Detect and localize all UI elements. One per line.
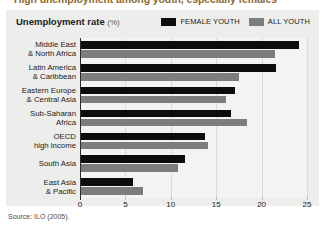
value-axis-ticks: 0510152025 <box>80 200 307 212</box>
legend-swatch-all-youth <box>249 18 264 26</box>
bar <box>81 187 143 195</box>
bars-group <box>80 38 307 198</box>
bar <box>81 87 235 95</box>
bar <box>81 73 239 81</box>
category-label: Sub-SaharanAfrica <box>10 107 76 130</box>
gridline-25 <box>307 38 308 198</box>
category-axis-labels: Middle East& North AfricaLatin America& … <box>10 38 76 198</box>
x-tick-mark-10 <box>171 196 172 200</box>
bar-group-row <box>81 61 307 84</box>
chart-panel: Unemployment rate (%) FEMALE YOUTH ALL Y… <box>6 10 319 206</box>
category-label-line: OECD <box>53 132 76 141</box>
category-label-line: Latin America <box>29 63 76 72</box>
x-tick-label-20: 20 <box>257 200 266 209</box>
x-tick-label-5: 5 <box>123 200 127 209</box>
chart-legend: FEMALE YOUTH ALL YOUTH <box>161 17 310 26</box>
plot-area <box>80 38 307 198</box>
x-tick-label-0: 0 <box>78 200 82 209</box>
legend-label-all-youth: ALL YOUTH <box>268 17 310 26</box>
x-tick-label-25: 25 <box>303 200 312 209</box>
category-label: Latin America& Caribbean <box>10 61 76 84</box>
bar <box>81 155 185 163</box>
bar <box>81 96 226 104</box>
category-label-line: & North Africa <box>28 49 76 58</box>
bar <box>81 164 178 172</box>
figure-container: High unemployment among youth, especiall… <box>0 0 325 243</box>
category-label: OECDhigh income <box>10 129 76 152</box>
value-axis-line <box>80 38 81 198</box>
source-note: Source: ILO (2005). <box>8 213 69 220</box>
x-tick-mark-5 <box>125 196 126 200</box>
category-label: Middle East& North Africa <box>10 38 76 61</box>
x-tick-mark-25 <box>307 196 308 200</box>
bar <box>81 142 208 150</box>
category-label-line: high income <box>34 141 76 150</box>
bar-group-row <box>81 84 307 107</box>
bar-group-row <box>81 175 307 198</box>
category-label-line: South Asia <box>39 159 76 168</box>
category-label-line: Eastern Europe <box>22 86 76 95</box>
panel-title-text: Unemployment rate <box>16 16 105 27</box>
figure-caption: High unemployment among youth, especiall… <box>14 0 314 5</box>
category-label-line: East Asia <box>43 178 76 187</box>
bar-group-row <box>81 129 307 152</box>
bar <box>81 41 299 49</box>
category-label-line: & Caribbean <box>33 72 76 81</box>
x-tick-label-15: 15 <box>212 200 221 209</box>
bar <box>81 50 275 58</box>
category-label-line: Africa <box>56 118 76 127</box>
legend-swatch-female-youth <box>161 18 176 26</box>
panel-title-unit: (%) <box>107 18 119 27</box>
x-tick-mark-20 <box>262 196 263 200</box>
category-label-line: Middle East <box>35 40 76 49</box>
category-label-line: & Central Asia <box>27 95 76 104</box>
legend-label-female-youth: FEMALE YOUTH <box>180 17 239 26</box>
bar <box>81 110 231 118</box>
bar-group-row <box>81 107 307 130</box>
bar <box>81 119 247 127</box>
bar <box>81 133 205 141</box>
bar <box>81 178 133 186</box>
category-label-line: & Pacific <box>46 187 76 196</box>
x-tick-label-10: 10 <box>166 200 175 209</box>
legend-item-all-youth: ALL YOUTH <box>249 17 310 26</box>
category-label: Eastern Europe& Central Asia <box>10 84 76 107</box>
category-label: East Asia& Pacific <box>10 175 76 198</box>
bar-group-row <box>81 152 307 175</box>
x-tick-mark-15 <box>216 196 217 200</box>
bar <box>81 64 276 72</box>
category-label-line: Sub-Saharan <box>30 109 76 118</box>
x-tick-mark-0 <box>80 196 81 200</box>
legend-item-female-youth: FEMALE YOUTH <box>161 17 239 26</box>
panel-title: Unemployment rate (%) <box>16 16 120 27</box>
category-label: South Asia <box>10 152 76 175</box>
bar-group-row <box>81 38 307 61</box>
